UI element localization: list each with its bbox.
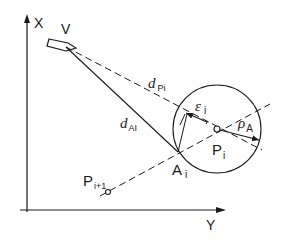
pi-label: Pi <box>212 141 225 161</box>
x-axis-arrow-icon <box>24 14 30 23</box>
diagram-canvas: X Y V dPi dAI εi ρA Pi Ai Pi+1 <box>0 0 290 245</box>
rho-label: ρA <box>237 115 253 134</box>
epsilon-tick <box>180 114 185 125</box>
ai-label: Ai <box>172 161 187 180</box>
d-pi-label: dPi <box>148 75 166 93</box>
d-ai-label: dAI <box>120 115 137 133</box>
y-axis <box>20 207 226 213</box>
waypoint-acceptance-diagram: X Y V dPi dAI εi ρA Pi Ai Pi+1 <box>0 0 290 245</box>
x-axis-label: X <box>34 15 44 31</box>
y-axis-arrow-icon <box>216 207 226 213</box>
y-axis-label: Y <box>206 217 216 233</box>
vessel-label: V <box>61 21 71 37</box>
x-axis <box>24 14 30 212</box>
waypoint-pi-marker <box>214 126 220 132</box>
vessel-icon <box>47 39 76 51</box>
epsilon-label: εi <box>195 98 206 116</box>
rho-radius-arrow <box>220 130 259 140</box>
d-ai-line <box>66 47 178 152</box>
d-pi-line <box>66 47 262 150</box>
pi1-label: Pi+1 <box>83 172 106 191</box>
